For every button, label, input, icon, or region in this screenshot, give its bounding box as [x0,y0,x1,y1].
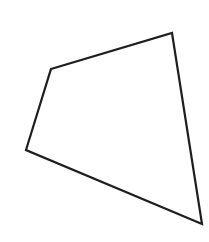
quadrilateral-shape [26,33,202,224]
quadrilateral-figure [0,0,209,242]
diagram-canvas [0,0,209,242]
